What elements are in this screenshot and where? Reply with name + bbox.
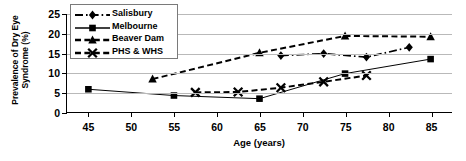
x-axis-tick [174, 112, 175, 117]
x-axis-tick [303, 112, 304, 117]
data-point-square [256, 95, 263, 102]
x-axis-tick-label: 55 [168, 121, 180, 133]
y-axis-tick-label: 5 [54, 87, 60, 99]
x-axis-tick [432, 112, 433, 117]
x-axis-tick [88, 112, 89, 117]
data-point-diamond [277, 51, 284, 60]
y-axis-tick [62, 113, 67, 114]
data-point-square [89, 24, 96, 31]
y-axis-tick [62, 73, 67, 74]
x-axis-tick-label: 85 [426, 121, 438, 133]
x-axis-tick [389, 112, 390, 117]
x-axis-tick-label: 60 [211, 121, 223, 133]
data-point-square [85, 86, 92, 93]
y-axis-tick [62, 54, 67, 55]
y-axis-tick-label: 0 [54, 107, 60, 119]
dry-eye-prevalence-chart: Prevalence of Dry Eye Syndrome (%) 05101… [0, 0, 466, 161]
legend-item-phs-whs: PHS & WHS [71, 45, 177, 58]
x-axis-tick [346, 112, 347, 117]
y-axis-tick [62, 34, 67, 35]
x-axis-tick-label: 70 [297, 121, 309, 133]
legend-label-salisbury: Salisbury [112, 8, 153, 18]
legend-item-melbourne: Melbourne [71, 20, 177, 33]
legend-key-melbourne [74, 20, 111, 32]
legend-key-salisbury [74, 7, 111, 19]
x-axis-tick-label: 65 [254, 121, 266, 133]
x-axis-tick [131, 112, 132, 117]
data-point-diamond [406, 43, 413, 52]
y-axis-tick-label: 20 [48, 28, 60, 40]
legend-key-glyph [74, 47, 111, 59]
x-axis-tick-label: 80 [383, 121, 395, 133]
y-axis-title-line1: Prevalence of Dry Eye [10, 15, 20, 104]
x-axis-title: Age (years) [66, 137, 452, 148]
data-point-diamond [89, 11, 96, 20]
series-line [195, 76, 366, 93]
y-axis-tick [62, 93, 67, 94]
legend-label-beaver-dam: Beaver Dam [112, 33, 164, 43]
series-melbourne [85, 56, 434, 102]
x-axis-tick [217, 112, 218, 117]
legend-key-phs-whs [74, 45, 111, 57]
legend: Salisbury Melbourne Beaver Dam PHS & WHS [70, 4, 178, 59]
legend-label-phs-whs: PHS & WHS [112, 46, 163, 56]
series-salisbury [277, 43, 413, 62]
x-axis-tick-label: 45 [83, 121, 95, 133]
series-line [281, 47, 409, 57]
y-axis-title: Prevalence of Dry Eye Syndrome (%) [0, 0, 40, 120]
y-axis-title-line2: Syndrome (%) [20, 15, 30, 104]
legend-label-melbourne: Melbourne [112, 21, 158, 31]
legend-item-salisbury: Salisbury [71, 7, 177, 20]
series-beaver-dam [148, 31, 434, 82]
gridline [67, 73, 452, 74]
x-axis-tick [260, 112, 261, 117]
legend-item-beaver-dam: Beaver Dam [71, 32, 177, 45]
gridline [67, 93, 452, 94]
y-axis-tick-label: 10 [48, 67, 60, 79]
y-axis-tick [62, 14, 67, 15]
legend-key-beaver-dam [74, 32, 111, 44]
data-point-square [427, 56, 434, 63]
y-axis-tick-label: 15 [48, 48, 60, 60]
y-axis-tick-label: 25 [48, 8, 60, 20]
x-axis-tick-label: 75 [340, 121, 352, 133]
x-axis-tick-label: 50 [125, 121, 137, 133]
